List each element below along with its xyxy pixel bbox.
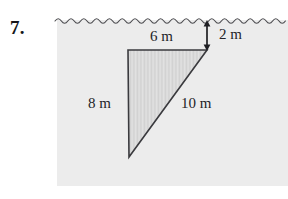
- label-depth-2m: 2 m: [219, 27, 242, 42]
- problem-number: 7.: [10, 18, 25, 37]
- problem-figure: 7. 6 m 8 m 10 m 2 m: [0, 0, 288, 199]
- label-top-side-6m: 6 m: [150, 29, 173, 44]
- label-left-side-8m: 8 m: [88, 96, 111, 111]
- label-hypotenuse-10m: 10 m: [181, 96, 211, 111]
